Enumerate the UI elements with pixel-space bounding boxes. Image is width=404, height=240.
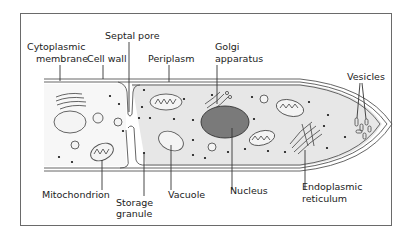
label-er-1: Endoplasmic: [302, 181, 362, 192]
label-storage-granule-1: Storage: [116, 197, 153, 208]
label-cell-wall: Cell wall: [87, 53, 127, 64]
label-mitochondrion: Mitochondrion: [42, 189, 110, 200]
vesicle-small: [71, 141, 79, 149]
vesicle-small: [260, 95, 268, 103]
label-storage-granule-2: granule: [116, 208, 152, 219]
vesicle-small: [114, 118, 122, 126]
label-vacuole: Vacuole: [168, 189, 205, 200]
label-septal-pore: Septal pore: [105, 30, 160, 41]
hyphal-cell-diagram: Cytoplasmic membrane Cell wall Septal po…: [0, 0, 404, 240]
label-nucleus: Nucleus: [230, 185, 268, 196]
vesicle-small: [93, 113, 103, 123]
nucleus: [201, 106, 249, 138]
label-er-2: reticulum: [302, 193, 347, 204]
vesicle-small: [208, 143, 216, 151]
label-periplasm: Periplasm: [148, 53, 194, 64]
label-golgi-1: Golgi: [215, 41, 239, 52]
vacuole-left: [54, 111, 86, 133]
label-golgi-2: apparatus: [215, 53, 263, 64]
label-cytoplasmic-membrane-2: membrane: [36, 53, 88, 64]
label-vesicles: Vesicles: [347, 71, 385, 82]
label-cytoplasmic-membrane-1: Cytoplasmic: [27, 41, 85, 52]
